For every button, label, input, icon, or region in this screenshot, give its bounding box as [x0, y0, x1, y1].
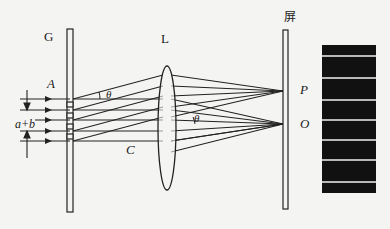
- lens-label: L: [161, 32, 169, 45]
- angle-arc-theta-1: [99, 92, 100, 99]
- point-c-label: C: [126, 143, 135, 156]
- screen: [283, 30, 288, 209]
- screen-label: 屏: [284, 11, 296, 23]
- grating-constant-label: a+b: [15, 118, 35, 130]
- angle-theta-label-1: θ: [106, 89, 111, 100]
- lens: [158, 66, 176, 190]
- point-o-label: O: [300, 117, 309, 130]
- zero-order-rays: [73, 99, 283, 141]
- angle-theta-label-2: θ: [194, 113, 199, 124]
- ray-arrows: [45, 96, 52, 144]
- point-a-label: A: [47, 77, 55, 90]
- lower-rays: [171, 124, 283, 152]
- point-p-label: P: [300, 83, 308, 96]
- grating-label: G: [44, 30, 53, 43]
- fringe-pattern: [322, 45, 376, 193]
